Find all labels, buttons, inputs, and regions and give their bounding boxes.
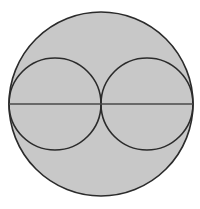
geometry-figure bbox=[0, 0, 200, 209]
